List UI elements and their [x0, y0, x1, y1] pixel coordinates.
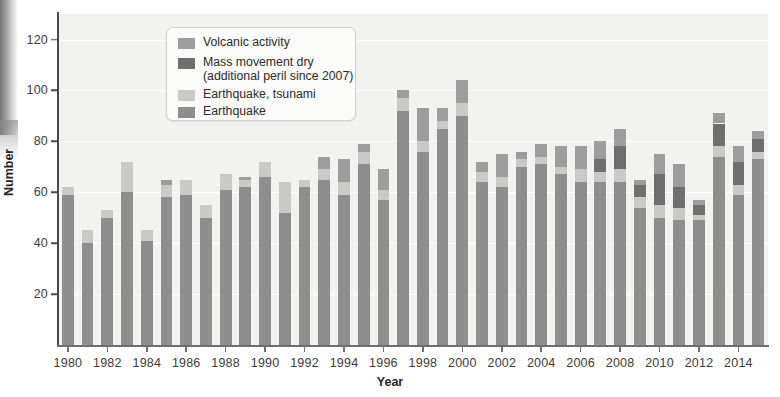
legend-item[interactable]: Earthquake	[178, 105, 266, 119]
bar-segment	[673, 164, 685, 187]
x-tick-mark	[659, 346, 661, 352]
x-tick-label: 2004	[527, 356, 556, 370]
bar-segment	[200, 205, 212, 218]
bar-group	[141, 14, 153, 345]
bar-segment	[239, 177, 251, 180]
bar-segment	[279, 213, 291, 345]
bar-segment	[535, 144, 547, 157]
legend-label: Earthquake, tsunami	[203, 88, 316, 102]
bar-segment	[575, 182, 587, 345]
x-tick-label: 1986	[172, 356, 201, 370]
x-tick-mark	[422, 346, 424, 352]
y-tick-mark	[51, 191, 57, 193]
bar-group	[417, 14, 429, 345]
bar-segment	[575, 146, 587, 169]
legend-label: Volcanic activity	[203, 36, 290, 50]
y-tick-mark	[51, 39, 57, 41]
x-tick-label: 1996	[369, 356, 398, 370]
chart-legend: Volcanic activityMass movement dry (addi…	[166, 27, 356, 121]
bar-group	[496, 14, 508, 345]
bar-segment	[693, 220, 705, 345]
bar-segment	[338, 195, 350, 345]
x-tick-label: 2014	[724, 356, 753, 370]
chart-figure: 20406080100120 1980198219841986198819901…	[0, 0, 780, 397]
bar-segment	[338, 159, 350, 182]
bar-segment	[101, 210, 113, 218]
legend-item[interactable]: Mass movement dry (additional peril sinc…	[178, 56, 353, 83]
x-tick-label: 1988	[211, 356, 240, 370]
bar-segment	[397, 111, 409, 345]
x-tick-label: 2006	[566, 356, 595, 370]
x-tick-label: 2002	[487, 356, 516, 370]
y-tick-label: 80	[8, 134, 48, 148]
bar-segment	[654, 218, 666, 345]
legend-swatch	[178, 38, 195, 49]
x-tick-mark	[67, 346, 69, 352]
x-tick-label: 2012	[685, 356, 714, 370]
bar-segment	[516, 159, 528, 167]
bar-segment	[476, 172, 488, 182]
x-tick-label: 1994	[330, 356, 359, 370]
bar-segment	[417, 152, 429, 346]
bar-segment	[733, 146, 745, 161]
bar-segment	[693, 215, 705, 220]
bar-group	[673, 14, 685, 345]
legend-item[interactable]: Earthquake, tsunami	[178, 88, 316, 102]
bar-segment	[634, 185, 646, 198]
bar-segment	[378, 169, 390, 189]
bar-group	[555, 14, 567, 345]
bar-segment	[239, 180, 251, 188]
bar-segment	[259, 177, 271, 345]
bar-segment	[555, 146, 567, 166]
bar-segment	[456, 103, 468, 116]
y-axis-line	[57, 12, 59, 346]
bar-segment	[733, 162, 745, 185]
bar-segment	[437, 121, 449, 129]
bar-segment	[476, 162, 488, 172]
bar-group	[752, 14, 764, 345]
bar-segment	[121, 192, 133, 345]
plot-area	[58, 14, 768, 345]
bar-group	[575, 14, 587, 345]
bar-segment	[318, 180, 330, 346]
x-tick-mark	[738, 346, 740, 352]
bar-series-container	[58, 14, 768, 345]
bar-segment	[239, 187, 251, 345]
bar-segment	[555, 174, 567, 345]
bar-segment	[338, 182, 350, 195]
bar-segment	[516, 167, 528, 345]
bar-segment	[654, 205, 666, 218]
bar-segment	[594, 182, 606, 345]
bar-segment	[693, 200, 705, 205]
bar-group	[634, 14, 646, 345]
bar-segment	[358, 152, 370, 165]
bar-segment	[161, 197, 173, 345]
legend-item[interactable]: Volcanic activity	[178, 36, 290, 50]
bar-group	[693, 14, 705, 345]
x-tick-mark	[185, 346, 187, 352]
bar-segment	[82, 230, 94, 243]
bar-segment	[358, 144, 370, 152]
bar-segment	[417, 141, 429, 151]
bar-segment	[62, 187, 74, 195]
bar-segment	[476, 182, 488, 345]
y-tick-label: 120	[8, 33, 48, 47]
bar-segment	[752, 131, 764, 139]
bar-segment	[161, 185, 173, 198]
x-axis-line	[57, 345, 769, 347]
bar-group	[654, 14, 666, 345]
bar-segment	[713, 146, 725, 156]
x-tick-mark	[462, 346, 464, 352]
bar-group	[358, 14, 370, 345]
bar-group	[101, 14, 113, 345]
bar-segment	[614, 129, 626, 147]
bar-group	[121, 14, 133, 345]
bar-segment	[378, 200, 390, 345]
bar-segment	[614, 169, 626, 182]
bar-group	[733, 14, 745, 345]
bar-group	[378, 14, 390, 345]
x-tick-mark	[225, 346, 227, 352]
bar-segment	[614, 182, 626, 345]
bar-segment	[259, 162, 271, 177]
bar-segment	[220, 174, 232, 189]
